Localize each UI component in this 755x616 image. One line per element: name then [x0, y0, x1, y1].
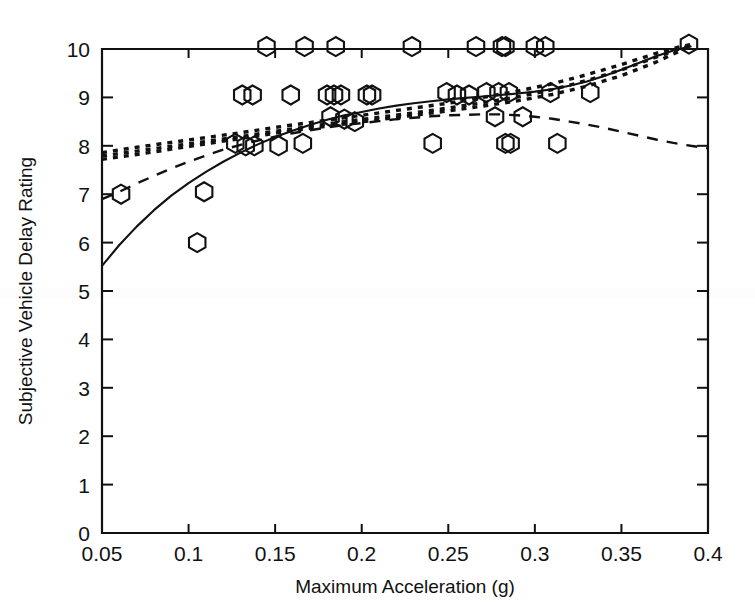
y-tick-label: 9	[78, 86, 90, 109]
x-tick-label: 0.3	[520, 542, 549, 565]
figure-background	[0, 0, 755, 616]
y-tick-label: 3	[78, 377, 90, 400]
x-tick-label: 0.05	[82, 542, 123, 565]
scan-artifact-band	[0, 288, 755, 298]
x-tick-label: 0.15	[255, 542, 296, 565]
scatter-plot: 0.050.10.150.20.250.30.350.4 01234567891…	[0, 0, 755, 616]
y-axis-title: Subjective Vehicle Delay Rating	[15, 157, 36, 425]
x-tick-label: 0.35	[601, 542, 642, 565]
y-tick-label: 8	[78, 135, 90, 158]
y-tick-label: 4	[78, 328, 90, 351]
y-tick-label: 0	[78, 522, 90, 545]
x-tick-label: 0.1	[174, 542, 203, 565]
y-tick-label: 10	[67, 38, 90, 61]
x-tick-label: 0.4	[693, 542, 723, 565]
y-tick-label: 7	[78, 183, 90, 206]
y-tick-label: 6	[78, 232, 90, 255]
y-tick-label: 5	[78, 280, 90, 303]
y-tick-label: 1	[78, 474, 90, 497]
x-axis-title: Maximum Acceleration (g)	[295, 576, 515, 597]
y-tick-label: 2	[78, 425, 90, 448]
x-tick-label: 0.25	[428, 542, 469, 565]
chart-figure: 0.050.10.150.20.250.30.350.4 01234567891…	[0, 0, 755, 616]
x-tick-label: 0.2	[347, 542, 376, 565]
